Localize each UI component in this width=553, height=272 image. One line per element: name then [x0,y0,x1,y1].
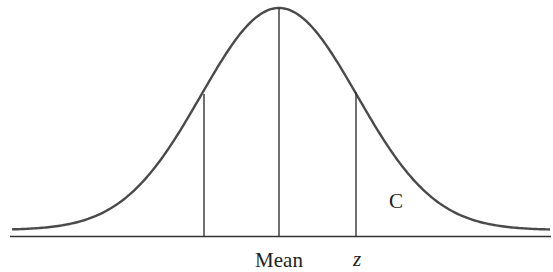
mean-label: Mean [239,250,319,271]
tail-region-label: C [366,191,426,212]
z-label: z [337,249,377,270]
normal-curve-diagram [0,0,553,272]
bell-curve [12,8,550,229]
